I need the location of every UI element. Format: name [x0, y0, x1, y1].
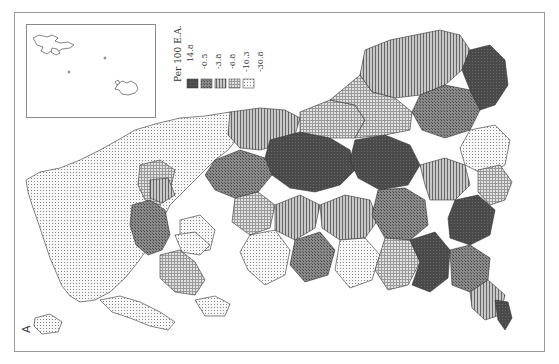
inset-islands	[33, 35, 138, 95]
legend-title: Per 100 E.A.	[173, 25, 183, 82]
legend-swatch-2	[215, 79, 226, 88]
legend-swatch-4	[243, 79, 254, 88]
legend-break-5: -30.8	[256, 51, 265, 72]
legend-break-2: -3.8	[214, 54, 223, 69]
legend-swatch-1	[201, 79, 212, 88]
map-regions	[26, 30, 512, 334]
panel-label: A	[20, 325, 33, 333]
legend-break-4: -10.3	[242, 51, 251, 72]
legend-break-3: -6.8	[228, 54, 237, 69]
legend-swatch-3	[229, 79, 240, 88]
legend-break-0: 14.8	[186, 44, 195, 62]
legend-break-1: -0.5	[200, 54, 209, 69]
choropleth-map: Per 100 E.A. 14.8 -0.5 -3.8 -6.8 -10.3 -…	[0, 0, 559, 364]
legend: Per 100 E.A. 14.8 -0.5 -3.8 -6.8 -10.3 -…	[173, 25, 265, 88]
legend-swatch-0	[187, 79, 198, 88]
